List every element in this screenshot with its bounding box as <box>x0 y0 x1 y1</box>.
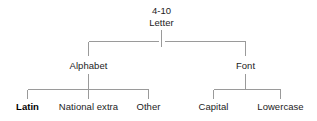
node-root-letter: 4-10 Letter <box>149 5 174 29</box>
node-alphabet-label: Alphabet <box>70 60 108 71</box>
node-capital: Capital <box>199 101 229 113</box>
node-capital-label: Capital <box>199 101 229 112</box>
node-national-extra-label: National extra <box>59 101 118 112</box>
node-latin: Latin <box>16 101 39 113</box>
node-font-label: Font <box>236 60 255 71</box>
root-number: 4-10 <box>152 5 171 16</box>
node-lowercase: Lowercase <box>257 101 303 113</box>
node-other-label: Other <box>136 101 160 112</box>
node-font: Font <box>236 60 255 72</box>
node-other: Other <box>136 101 160 113</box>
node-alphabet: Alphabet <box>70 60 108 72</box>
tree-diagram: 4-10 Letter Alphabet Font Latin National… <box>0 0 317 121</box>
node-latin-label: Latin <box>16 101 39 112</box>
node-national-extra: National extra <box>59 101 118 113</box>
node-lowercase-label: Lowercase <box>257 101 303 112</box>
root-label: Letter <box>149 17 174 29</box>
